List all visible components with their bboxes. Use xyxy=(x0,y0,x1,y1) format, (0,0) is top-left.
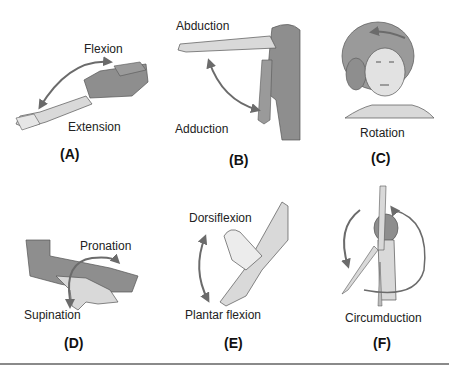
label-dorsiflexion: Dorsiflexion xyxy=(189,211,252,225)
caption-divider xyxy=(0,363,449,365)
panel-label-c: (C) xyxy=(371,150,390,166)
panel-label-d: (D) xyxy=(64,335,83,351)
label-supination: Supination xyxy=(24,308,81,322)
panel-label-e: (E) xyxy=(224,335,243,351)
panel-label-f: (F) xyxy=(373,335,391,351)
label-plantar-flexion: Plantar flexion xyxy=(185,308,261,322)
label-flexion: Flexion xyxy=(84,42,123,56)
panel-label-b: (B) xyxy=(229,152,248,168)
label-abduction: Abduction xyxy=(176,19,229,33)
label-pronation: Pronation xyxy=(80,239,131,253)
label-extension: Extension xyxy=(68,120,121,134)
label-circumduction: Circumduction xyxy=(345,311,422,325)
label-rotation: Rotation xyxy=(360,126,405,140)
label-adduction: Adduction xyxy=(175,122,228,136)
arm-circumduction-illustration xyxy=(342,186,425,306)
head-rotation-illustration xyxy=(342,22,434,118)
panel-label-a: (A) xyxy=(60,146,79,162)
